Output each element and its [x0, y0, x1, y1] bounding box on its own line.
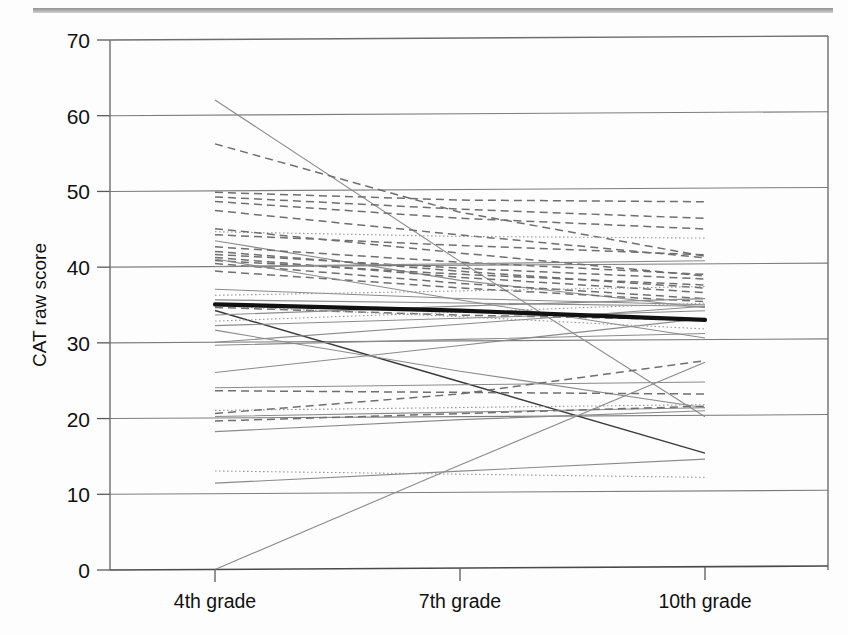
trajectory-line [215, 310, 705, 453]
x-axis-category-label: 4th grade [174, 590, 256, 612]
gridline [110, 112, 828, 116]
trajectory-line [215, 411, 705, 432]
y-axis-tick-label: 30 [67, 332, 90, 355]
trajectory-line [215, 144, 705, 256]
x-axis-tick-labels: 4th grade7th grade10th grade [174, 590, 752, 612]
trajectory-line [215, 382, 705, 388]
gridline [110, 490, 828, 494]
trajectory-line [215, 333, 705, 345]
y-axis-tick-label: 70 [67, 29, 90, 52]
x-axis-category-label: 7th grade [419, 590, 501, 612]
y-axis-tick-label: 0 [78, 559, 90, 582]
trajectory-line [215, 254, 705, 279]
trajectory-line [215, 362, 705, 569]
trajectory-line [215, 192, 705, 201]
chart-svg: 010203040506070 4th grade7th grade10th g… [0, 0, 848, 635]
trajectory-line [215, 232, 705, 238]
chart-figure: 010203040506070 4th grade7th grade10th g… [0, 0, 848, 635]
y-axis-title: CAT raw score [29, 243, 50, 367]
y-axis-tick-label: 10 [67, 483, 90, 506]
y-axis-tick-label: 40 [67, 256, 90, 279]
gridline [110, 187, 828, 191]
trajectory-line [215, 211, 705, 258]
y-axis-tick-label: 20 [67, 408, 90, 431]
trajectory-line [215, 100, 705, 417]
trajectory-line [215, 459, 705, 483]
y-axis-tick-label: 60 [67, 105, 90, 128]
data-series-layer [215, 100, 705, 569]
x-axis-category-label: 10th grade [658, 590, 751, 612]
y-axis-tick-label: 50 [67, 180, 90, 203]
page-canvas: 010203040506070 4th grade7th grade10th g… [0, 0, 848, 635]
y-axis-ticks [97, 40, 110, 570]
trajectory-line [215, 471, 705, 477]
y-axis-tick-labels: 010203040506070 [67, 29, 90, 582]
trajectory-line [215, 197, 705, 218]
